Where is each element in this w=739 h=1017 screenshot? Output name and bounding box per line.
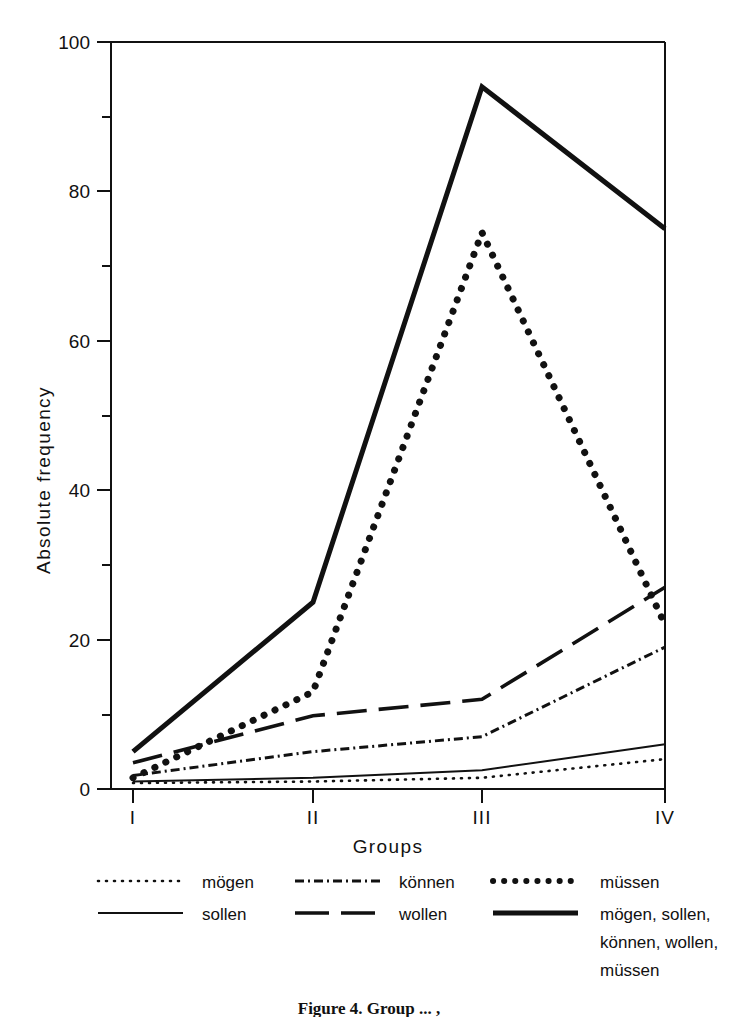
y-tick-label: 80 (69, 181, 90, 202)
x-axis-title: Groups (353, 836, 424, 857)
y-tick-label: 40 (69, 480, 90, 501)
legend-label: sollen (202, 905, 246, 924)
legend-item-konnen: können (295, 873, 455, 892)
axes-frame (111, 42, 665, 789)
legend-label-line1: mögen, sollen, (600, 905, 711, 924)
x-tick-label: III (473, 807, 492, 828)
legend-item-mussen: müssen (493, 873, 660, 892)
legend-item-wollen: wollen (295, 905, 447, 924)
legend-label: müssen (600, 873, 660, 892)
y-tick-label: 20 (69, 630, 90, 651)
series-line-wollen (133, 587, 665, 763)
series-line-mögen (133, 87, 665, 752)
x-axis-ticks (133, 789, 665, 803)
y-axis-minor-ticks (102, 117, 111, 715)
x-tick-label: II (307, 807, 320, 828)
legend-item-mogen: mögen (98, 873, 254, 892)
series-layer (133, 87, 665, 783)
legend-label: mögen (202, 873, 254, 892)
legend-label-line2: können, wollen, (600, 933, 718, 952)
y-axis-tick-labels: 100 80 60 40 20 0 (58, 32, 90, 800)
legend-label: wollen (398, 905, 447, 924)
y-tick-label: 60 (69, 331, 90, 352)
series-line-sollen (133, 744, 665, 781)
legend-label-line3: müssen (600, 961, 660, 980)
x-tick-label: I (130, 807, 136, 828)
y-tick-label: 100 (58, 32, 90, 53)
x-axis-tick-labels: I II III IV (130, 807, 675, 828)
figure-caption: Figure 4. Group ... , (298, 999, 440, 1017)
y-tick-label: 0 (79, 779, 90, 800)
figure-container: 100 80 60 40 20 0 Absolute frequency I I… (0, 0, 739, 1017)
x-tick-label: IV (655, 807, 675, 828)
legend-item-combined: mögen, sollen, können, wollen, müssen (493, 905, 718, 980)
legend-label: können (399, 873, 455, 892)
legend: mögen können müssen sollen wollen (98, 873, 718, 980)
line-chart: 100 80 60 40 20 0 Absolute frequency I I… (0, 0, 739, 1017)
series-line-müssen (133, 232, 665, 777)
y-axis-title: Absolute frequency (33, 386, 54, 574)
legend-item-sollen: sollen (98, 905, 246, 924)
